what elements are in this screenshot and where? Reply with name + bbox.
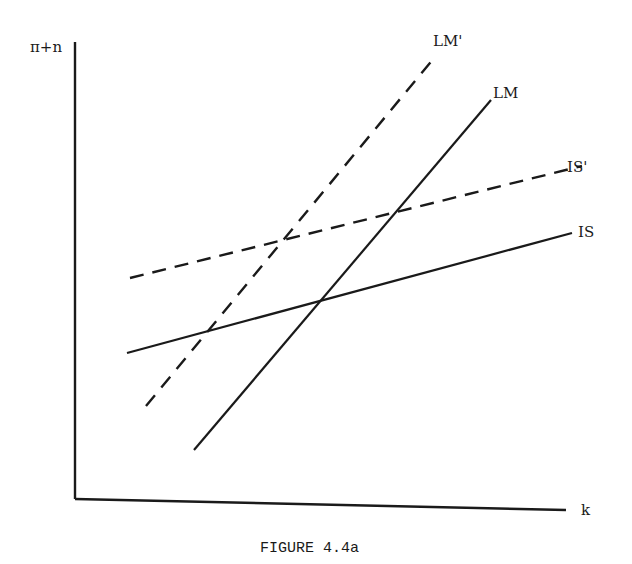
- lm-curve: [194, 100, 491, 450]
- x-axis: [75, 499, 566, 510]
- y-axis-label: π+n: [30, 38, 62, 56]
- is-curve: [127, 233, 572, 353]
- figure-caption: FIGURE 4.4a: [260, 540, 359, 557]
- lm-label: LM: [493, 84, 518, 102]
- x-axis-label: k: [581, 501, 591, 519]
- is-label: IS: [578, 223, 594, 241]
- is-prime-label: IS': [567, 158, 587, 176]
- lm-prime-label: LM': [433, 32, 462, 50]
- is-prime-curve: [130, 166, 582, 278]
- lm-prime-curve: [146, 58, 434, 406]
- figure-canvas: π+n k LM' LM IS' IS FIGURE 4.4a: [0, 0, 632, 564]
